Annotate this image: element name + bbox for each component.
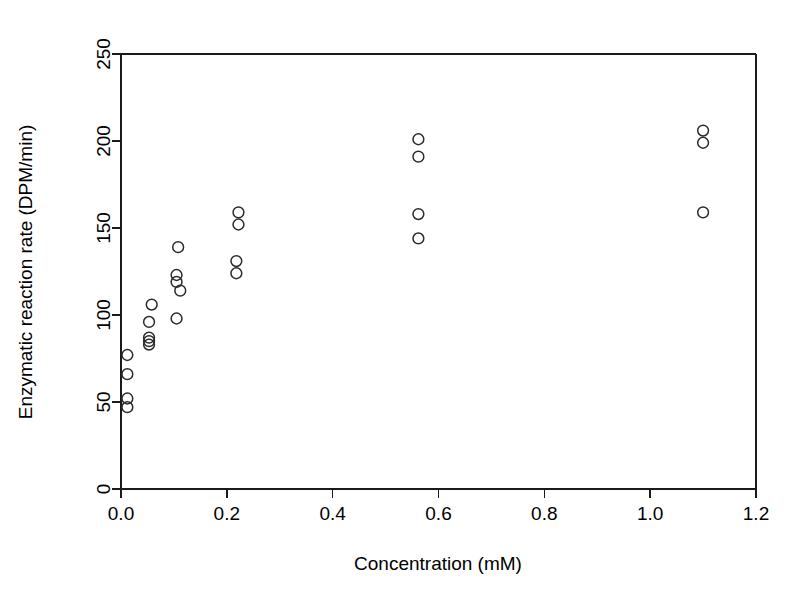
y-tick-label: 250 xyxy=(93,38,114,70)
x-axis-title: Concentration (mM) xyxy=(354,553,522,574)
data-point xyxy=(698,137,709,148)
data-point xyxy=(413,134,424,145)
data-point-series xyxy=(122,125,709,412)
x-tick-label: 0.8 xyxy=(531,503,557,524)
data-point xyxy=(231,268,242,279)
y-axis-title: Enzymatic reaction rate (DPM/min) xyxy=(15,125,36,420)
data-point xyxy=(233,219,244,230)
data-point xyxy=(413,209,424,220)
y-tick-label: 0 xyxy=(93,484,114,495)
data-point xyxy=(122,369,133,380)
data-point xyxy=(231,256,242,267)
data-point xyxy=(175,285,186,296)
x-tick-label: 0.6 xyxy=(425,503,451,524)
data-point xyxy=(171,313,182,324)
x-axis-ticks xyxy=(121,489,756,498)
x-tick-label: 0.0 xyxy=(108,503,134,524)
data-point xyxy=(173,242,184,253)
y-tick-label: 50 xyxy=(93,391,114,412)
x-tick-label: 1.0 xyxy=(637,503,663,524)
data-point xyxy=(144,317,155,328)
y-tick-label: 200 xyxy=(93,125,114,157)
data-point xyxy=(698,207,709,218)
data-point xyxy=(233,207,244,218)
scatter-plot-figure: 050100150200250 0.00.20.40.60.81.01.2 Co… xyxy=(0,0,795,608)
y-axis-tick-labels: 050100150200250 xyxy=(93,38,114,494)
data-point xyxy=(122,350,133,361)
x-axis-tick-labels: 0.00.20.40.60.81.01.2 xyxy=(108,503,769,524)
y-tick-label: 100 xyxy=(93,299,114,331)
y-tick-label: 150 xyxy=(93,212,114,244)
data-point xyxy=(413,233,424,244)
x-tick-label: 0.2 xyxy=(214,503,240,524)
x-tick-label: 1.2 xyxy=(743,503,769,524)
data-point xyxy=(698,125,709,136)
plot-frame xyxy=(121,54,756,489)
y-axis-ticks xyxy=(112,54,121,489)
plot-canvas: 050100150200250 0.00.20.40.60.81.01.2 Co… xyxy=(0,0,795,608)
data-point xyxy=(413,151,424,162)
data-point xyxy=(146,299,157,310)
x-tick-label: 0.4 xyxy=(319,503,346,524)
